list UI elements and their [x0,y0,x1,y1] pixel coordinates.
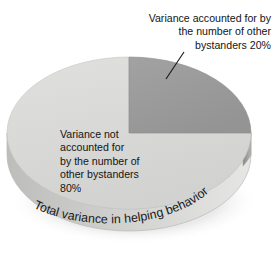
callout-variance-accounted: Variance accounted for by the number of … [149,12,271,52]
pie-slice-variance-accounted[interactable] [129,57,251,133]
callout-variance-not-accounted: Variance not accounted for by the number… [60,128,140,195]
pie-chart-figure: Total variance in helping behavior Varia… [0,0,279,254]
